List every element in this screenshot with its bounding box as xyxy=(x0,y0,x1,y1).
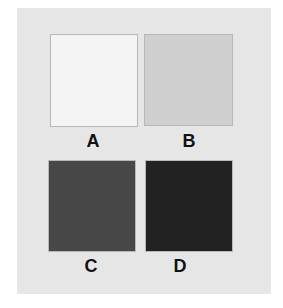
label-c: C xyxy=(46,256,136,276)
label-b: B xyxy=(144,131,234,151)
label-a: A xyxy=(48,131,138,151)
swatch-a xyxy=(50,34,138,127)
label-d: D xyxy=(135,256,225,276)
swatch-d xyxy=(145,160,233,252)
swatch-b xyxy=(144,34,233,126)
swatch-c xyxy=(48,160,136,252)
